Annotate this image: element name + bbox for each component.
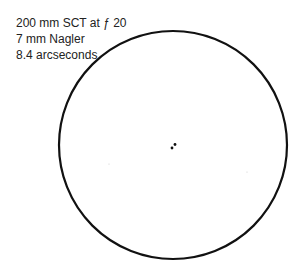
star: [246, 171, 247, 172]
star: [171, 147, 174, 150]
field-of-view-circle: [59, 31, 287, 259]
double-star: [108, 143, 247, 172]
star: [108, 163, 109, 164]
star: [174, 143, 177, 146]
eyepiece-field: [0, 0, 300, 275]
